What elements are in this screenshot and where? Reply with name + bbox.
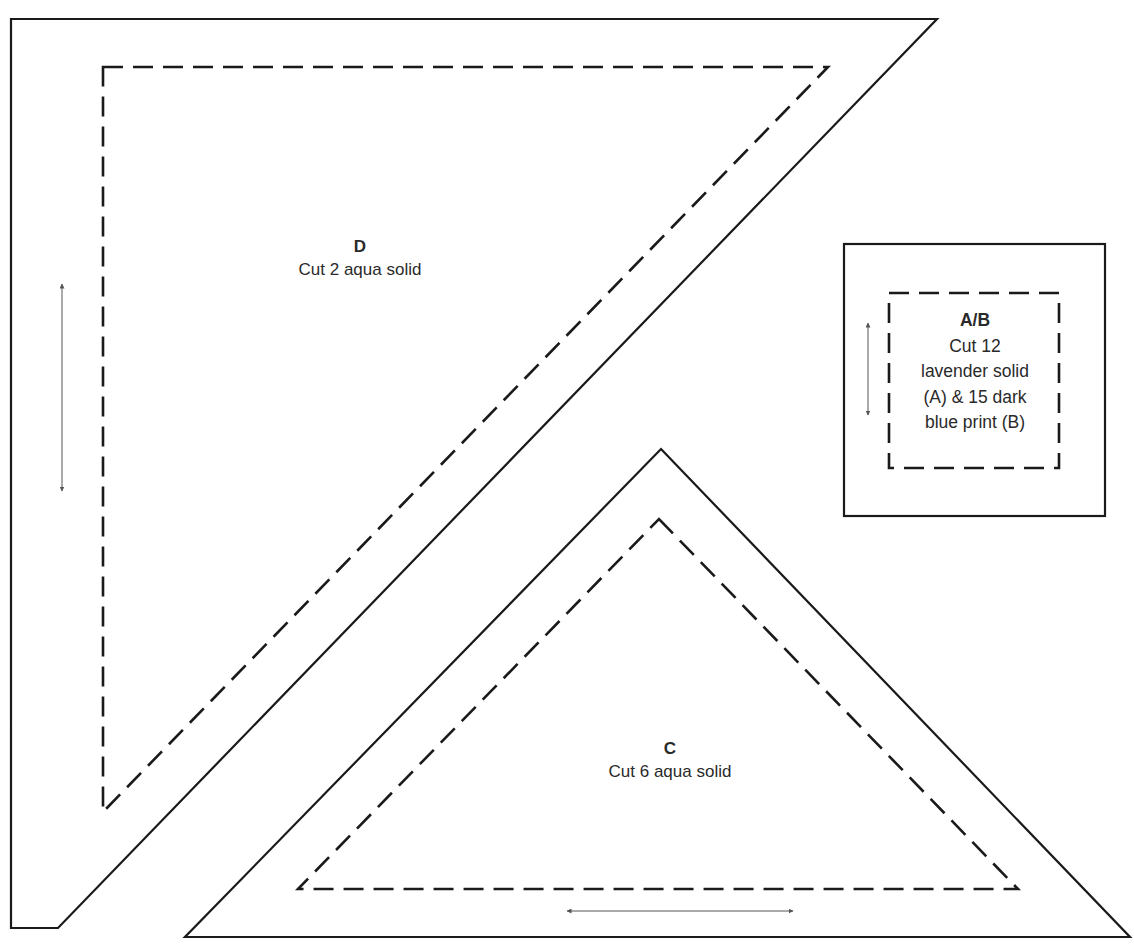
- piece-c-seam-line: [298, 519, 1018, 889]
- piece-ab-label: A/B Cut 12 lavender solid (A) & 15 dark …: [895, 308, 1055, 436]
- piece-ab-instruction-line-3: (A) & 15 dark: [895, 385, 1055, 411]
- piece-d-seam-line: [103, 67, 828, 812]
- piece-d-instruction: Cut 2 aqua solid: [250, 258, 470, 281]
- piece-ab-instruction-line-1: Cut 12: [895, 334, 1055, 360]
- piece-d-cut-line: [11, 19, 937, 928]
- piece-d-label: D Cut 2 aqua solid: [250, 235, 470, 281]
- piece-c: [185, 449, 1130, 937]
- piece-c-title: C: [560, 737, 780, 760]
- piece-d-title: D: [250, 235, 470, 258]
- piece-ab-title: A/B: [895, 308, 1055, 334]
- piece-d: [11, 19, 937, 928]
- quilt-template-diagram: [0, 0, 1134, 952]
- piece-ab-instruction-line-2: lavender solid: [895, 359, 1055, 385]
- piece-ab-instruction-line-4: blue print (B): [895, 410, 1055, 436]
- piece-c-instruction: Cut 6 aqua solid: [560, 760, 780, 783]
- piece-c-label: C Cut 6 aqua solid: [560, 737, 780, 783]
